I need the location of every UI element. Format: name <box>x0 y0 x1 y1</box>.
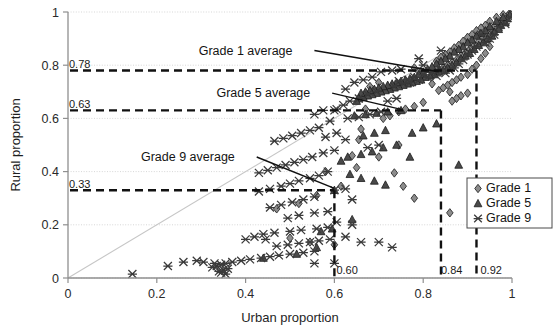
chart-annotation-label: Grade 1 average <box>199 44 293 58</box>
y-axis-title: Rural proportion <box>8 98 23 191</box>
x-axis-title: Urban proportion <box>241 310 339 325</box>
x-tick-label: 0.6 <box>326 287 343 301</box>
legend-item-label[interactable]: Grade 9 <box>486 211 531 225</box>
y-tick-label: 0 <box>52 272 59 286</box>
vertical-reference-label: 0.92 <box>480 264 501 276</box>
legend[interactable]: Grade 1Grade 5Grade 9 <box>467 178 552 228</box>
x-tick-label: 0.2 <box>148 287 165 301</box>
x-tick-label: 0.8 <box>415 287 432 301</box>
vertical-reference-label: 0.60 <box>336 264 357 276</box>
x-tick-label: 0.4 <box>237 287 254 301</box>
horizontal-reference-label: 0.63 <box>69 98 90 110</box>
y-tick-label: 0.2 <box>42 218 59 232</box>
scatter-chart-figure: 00.20.40.60.8100.20.40.60.81 0.780.630.3… <box>0 0 557 330</box>
horizontal-reference-label: 0.33 <box>69 178 90 190</box>
horizontal-reference-label: 0.78 <box>69 58 90 70</box>
legend-item-label[interactable]: Grade 5 <box>486 196 531 210</box>
vertical-reference-label: 0.84 <box>441 264 462 276</box>
chart-annotation-label: Grade 5 average <box>216 86 310 100</box>
y-tick-label: 0.4 <box>42 165 59 179</box>
legend-item-label[interactable]: Grade 1 <box>486 181 531 195</box>
chart-canvas: 00.20.40.60.8100.20.40.60.81 0.780.630.3… <box>0 0 557 330</box>
y-tick-label: 1 <box>52 6 59 20</box>
y-tick-label: 0.6 <box>42 112 59 126</box>
x-tick-label: 1 <box>509 287 516 301</box>
y-tick-label: 0.8 <box>42 59 59 73</box>
x-tick-label: 0 <box>65 287 72 301</box>
chart-annotation-label: Grade 9 average <box>141 150 235 164</box>
